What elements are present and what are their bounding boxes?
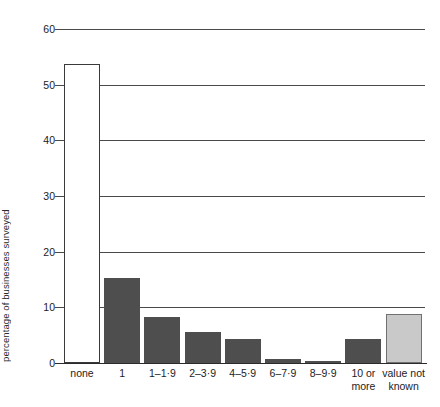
gridline-60	[55, 29, 425, 30]
plot-area: 0102030405060 none11–1·92–3·94–5·96–7·98…	[0, 0, 440, 407]
y-tick-label-0: 0	[9, 357, 55, 369]
bar-0	[64, 64, 100, 363]
bar-chart: percentage of businesses surveyed 010203…	[0, 0, 440, 407]
bar-3	[185, 332, 221, 363]
bar-4	[225, 339, 261, 363]
y-tick-label-10: 10	[9, 301, 55, 313]
y-tick-label-40: 40	[9, 134, 55, 146]
gridline-30	[55, 196, 425, 197]
bar-2	[144, 317, 180, 363]
y-tick-label-30: 30	[9, 190, 55, 202]
bar-7	[345, 339, 381, 363]
bar-5	[265, 359, 301, 363]
bar-1	[104, 278, 140, 363]
bar-6	[305, 361, 341, 363]
y-tick-label-50: 50	[9, 79, 55, 91]
gridline-50	[55, 85, 425, 86]
gridline-40	[55, 140, 425, 141]
x-tick-label-8: value not known	[376, 367, 432, 392]
gridline-0	[55, 363, 427, 364]
gridline-20	[55, 252, 425, 253]
y-tick-label-60: 60	[9, 23, 55, 35]
bar-8	[386, 314, 422, 363]
y-tick-label-20: 20	[9, 246, 55, 258]
